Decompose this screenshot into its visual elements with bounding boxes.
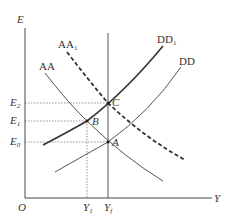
curve-dd [55,67,181,172]
tick-e2: E2 [9,96,21,110]
x-axis-label: Y [214,192,222,204]
tick-e1: E1 [9,114,20,128]
curve-dd1-label: DD1 [157,33,177,47]
curve-aa1-label: AA1 [58,38,78,52]
y-axis-label: E [16,13,24,25]
curve-aa-label: AA [39,60,55,72]
point-c-label: C [112,96,120,108]
point-c [107,102,110,105]
curve-aa [45,73,163,181]
curve-dd1 [43,46,163,145]
tick-y1: Y1 [83,201,93,215]
point-a-label: A [111,136,119,148]
curve-dd-label: DD [179,55,195,67]
curve-aa1 [67,52,185,160]
point-b [86,120,89,123]
tick-yf: Yf [104,201,113,215]
origin-label: O [18,201,26,213]
aa-dd-diagram: E Y O AA AA1 DD DD1 C B A E2 E1 E0 Y1 Yf [0,0,229,222]
point-b-label: B [92,115,99,127]
point-a [107,141,110,144]
tick-e0: E0 [9,135,21,149]
